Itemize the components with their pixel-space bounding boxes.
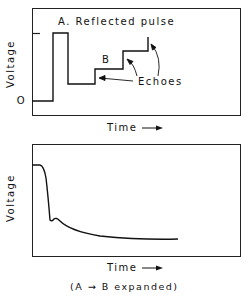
echoes-label: Echoes (138, 76, 183, 87)
caption: (A → B expanded) (70, 281, 179, 292)
bottom-time-arrow-icon (142, 266, 163, 271)
figure: O A. Reflected pulse B Echoes Voltage Ti… (0, 0, 249, 296)
label-a: A. Reflected pulse (58, 16, 175, 27)
bottom-panel: Voltage Time (A → B expanded) (5, 145, 241, 293)
top-ylabel: Voltage (5, 40, 16, 88)
zero-label: O (17, 95, 26, 106)
label-b: B (102, 54, 110, 65)
bottom-frame (33, 145, 241, 257)
top-panel: O A. Reflected pulse B Echoes Voltage Ti… (5, 9, 241, 134)
top-time-arrow-icon (142, 126, 163, 131)
decay-curve (32, 165, 178, 239)
bottom-ylabel: Voltage (5, 174, 16, 222)
top-xlabel: Time (106, 122, 137, 133)
bottom-xlabel: Time (106, 262, 137, 273)
step-waveform (32, 33, 148, 101)
